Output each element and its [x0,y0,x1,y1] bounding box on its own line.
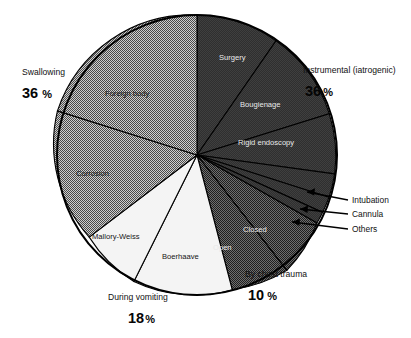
pie-chart-svg: Surgery Bougienage Rigid endoscopy Forei… [0,0,411,338]
slice-label-open: Open [213,243,232,252]
group-percent-chest-trauma: 10% [248,287,277,303]
pie-chart-figure: Surgery Bougienage Rigid endoscopy Forei… [0,0,411,338]
group-percent-instrumental-sign: % [323,86,333,98]
slice-label-boerhaave: Boerhaave [162,252,199,261]
group-percent-swallowing-sign: % [42,88,52,100]
callout-label-intubation: Intubation [352,195,389,205]
group-label-vomiting: During vomiting [108,292,168,302]
group-label-swallowing: Swallowing [22,67,65,77]
group-percent-vomiting-sign: % [145,313,155,325]
slice-label-corrosion: Corrosion [76,169,109,178]
slice-label-rigid-endoscopy: Rigid endoscopy [238,138,294,147]
group-percent-instrumental: 36% [305,83,333,99]
callout-label-others: Others [352,224,377,234]
slice-label-bougienage: Bougienage [240,100,281,109]
group-percent-swallowing: 36% [22,85,52,101]
group-percent-instrumental-value: 36 [305,83,321,99]
group-label-chest-trauma: By chest trauma [245,269,307,279]
slice-label-foreign-body: Foreign body [105,89,150,98]
group-percent-vomiting-value: 18 [128,310,144,326]
group-label-instrumental: Instrumental (iatrogenic) [303,65,396,75]
group-percent-chest-trauma-sign: % [267,290,277,302]
slice-label-closed: Closed [243,225,267,234]
callout-label-cannula: Cannula [352,209,384,219]
slice-label-surgery: Surgery [219,53,246,62]
group-percent-chest-trauma-value: 10 [248,287,264,303]
group-percent-swallowing-value: 36 [22,85,38,101]
group-percent-vomiting: 18% [128,310,155,326]
slice-label-mallory-weiss: Mallory-Weiss [92,232,140,241]
